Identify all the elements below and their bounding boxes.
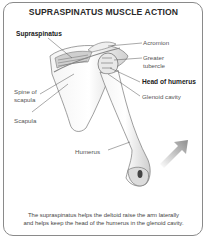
caption-line-1: The supraspinatus helps the deltoid rais… [6,211,201,219]
label-spine-of-scapula-line1: Spine of [14,88,37,95]
label-greater-tubercle-line1: Greater [143,54,164,61]
label-supraspinatus: Supraspinatus [16,30,62,37]
label-glenoid-cavity: Glenoid cavity [142,93,181,100]
label-head-of-humerus: Head of humerus [142,78,196,85]
caption-line-2: and helps keep the head of the humerus i… [6,219,201,227]
label-spine-of-scapula-line2: scapula [14,96,35,103]
label-scapula: Scapula [14,117,36,124]
movement-arrow-icon [160,140,188,168]
diagram-caption: The supraspinatus helps the deltoid rais… [6,211,201,227]
label-humerus: Humerus [75,148,100,155]
label-acromion: Acromion [143,39,169,46]
label-greater-tubercle-line2: tubercle [143,62,165,69]
